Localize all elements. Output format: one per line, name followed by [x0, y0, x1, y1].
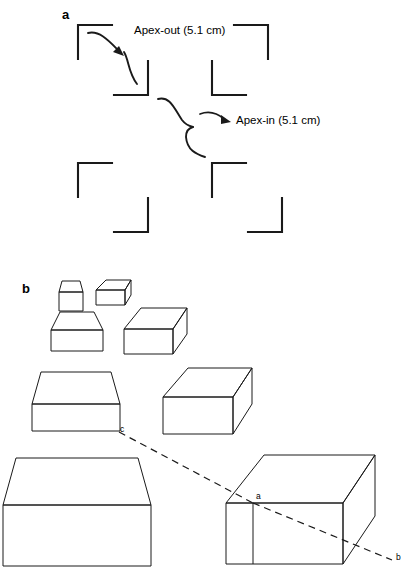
- box-oblique-3-front: [163, 397, 233, 434]
- apex-in-label: Apex-in (5.1 cm): [236, 114, 320, 126]
- box-oblique-3-right: [233, 368, 252, 434]
- apex-out-label: Apex-out (5.1 cm): [134, 24, 225, 36]
- vertex-label-b: b: [396, 552, 401, 562]
- box-oblique-2-front: [124, 329, 173, 354]
- box-oblique-2-top: [124, 308, 187, 329]
- panel-a-group: [78, 25, 282, 232]
- box-oblique-2: [124, 308, 187, 354]
- box-frontal-1-top: [59, 281, 83, 292]
- box-oblique-4-front: [226, 503, 343, 564]
- corner-bracket-br-inner: [248, 198, 282, 232]
- box-frontal-1: [59, 281, 83, 311]
- apex-in-brace-upper: [158, 99, 193, 127]
- corner-bracket-tr-outer: [234, 25, 268, 59]
- apex-in-pointer-group: [200, 113, 231, 124]
- box-frontal-2: [51, 312, 103, 351]
- apex-in-pointer-arrowhead: [221, 115, 231, 124]
- box-oblique-4: [226, 455, 375, 564]
- apex-out-pointer-group: [88, 33, 137, 84]
- box-oblique-3-top: [163, 368, 252, 397]
- box-frontal-3-top: [32, 372, 120, 404]
- panel-letter-a: a: [62, 7, 69, 22]
- corner-bracket-tr-inner: [212, 61, 246, 95]
- box-oblique-2-right: [173, 308, 187, 354]
- box-frontal-2-front: [51, 330, 103, 351]
- corner-bracket-bl-outer: [78, 163, 112, 197]
- corner-bracket-br-outer: [212, 163, 246, 197]
- apex-in-brace-group: [158, 99, 205, 157]
- box-frontal-3-front: [32, 404, 120, 431]
- figure-container: a b Apex-out (5.1 cm) Apex-in (5.1 cm) c…: [0, 0, 419, 571]
- panel-letter-b: b: [22, 281, 30, 296]
- box-frontal-2-top: [51, 312, 103, 330]
- box-frontal-4-top: [3, 458, 151, 505]
- corner-bracket-tl-inner: [114, 61, 148, 95]
- apex-out-pointer-tail: [124, 52, 137, 84]
- box-oblique-4-top: [226, 455, 375, 503]
- panel-b-group: [3, 280, 375, 566]
- corner-bracket-bl-inner: [114, 198, 148, 232]
- box-oblique-4-right: [343, 455, 375, 564]
- box-frontal-1-front: [59, 292, 83, 311]
- apex-in-pointer-curve: [200, 113, 224, 119]
- dashed-sightline-c-to-a: [119, 432, 253, 503]
- box-oblique-1-front: [96, 290, 125, 305]
- box-oblique-1: [96, 280, 131, 305]
- vertex-label-a: a: [256, 491, 261, 501]
- apex-out-pointer-curve: [88, 33, 120, 52]
- box-frontal-4-front: [3, 505, 151, 566]
- vertex-label-c: c: [120, 424, 124, 434]
- box-oblique-3: [163, 368, 252, 434]
- dashed-sightline-a-to-b: [253, 503, 392, 560]
- apex-in-brace-lower: [186, 127, 205, 157]
- figure-canvas: [0, 0, 419, 571]
- box-frontal-4: [3, 458, 151, 566]
- box-frontal-3: [32, 372, 120, 431]
- box-oblique-1-right: [125, 280, 131, 305]
- corner-bracket-tl-outer: [78, 25, 112, 59]
